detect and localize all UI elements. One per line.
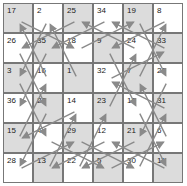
grid-cell[interactable]: 5 — [93, 153, 123, 183]
grid-cell[interactable]: 9 — [93, 33, 123, 63]
grid-cell[interactable]: 14 — [63, 93, 93, 123]
grid-cell[interactable]: 22 — [63, 153, 93, 183]
cell-number: 8 — [157, 6, 161, 15]
cell-number: 1 — [67, 66, 71, 75]
grid-cell[interactable]: 12 — [93, 123, 123, 153]
cell-number: 29 — [67, 126, 76, 135]
grid-cell[interactable]: 10 — [123, 93, 153, 123]
cell-number: 23 — [97, 96, 106, 105]
grid-cell[interactable]: 20 — [153, 63, 183, 93]
cell-number: 12 — [97, 126, 106, 135]
cell-number: 16 — [37, 66, 46, 75]
cell-number: 4 — [37, 126, 41, 135]
cell-number: 19 — [127, 6, 136, 15]
grid-cell[interactable]: 11 — [153, 153, 183, 183]
cell-number: 13 — [37, 156, 46, 165]
cell-number: 11 — [157, 156, 165, 165]
cell-number: 31 — [157, 96, 166, 105]
grid-cell[interactable]: 26 — [3, 33, 33, 63]
grid-cell[interactable]: 3 — [3, 63, 33, 93]
grid-cell[interactable]: 23 — [93, 93, 123, 123]
cell-number: 3 — [7, 66, 11, 75]
grid-cell[interactable]: 15 — [3, 123, 33, 153]
cell-number: 36 — [7, 96, 16, 105]
grid-cell[interactable]: 29 — [63, 123, 93, 153]
grid-cell[interactable]: 6 — [153, 123, 183, 153]
grid-cell[interactable]: 21 — [123, 123, 153, 153]
grid-cell[interactable]: 1 — [63, 63, 93, 93]
grid-cell[interactable]: 36 — [3, 93, 33, 123]
grid-cell[interactable]: 17 — [3, 3, 33, 33]
grid-cell[interactable]: 2 — [33, 3, 63, 33]
grid-cell[interactable]: 16 — [33, 63, 63, 93]
grid-cell[interactable]: 31 — [153, 93, 183, 123]
cell-number: 10 — [127, 96, 136, 105]
grid-cell[interactable]: 7 — [123, 63, 153, 93]
grid-cell[interactable]: 33 — [153, 33, 183, 63]
cell-number: 20 — [157, 66, 166, 75]
cell-number: 22 — [67, 156, 76, 165]
cell-number: 5 — [97, 156, 101, 165]
cell-number: 7 — [127, 66, 131, 75]
grid-cell[interactable]: 28 — [3, 153, 33, 183]
grid-cell[interactable]: 27 — [33, 93, 63, 123]
grid-cell[interactable]: 19 — [123, 3, 153, 33]
cell-number: 27 — [37, 96, 46, 105]
cell-number: 28 — [7, 156, 16, 165]
cell-number: 14 — [67, 96, 76, 105]
cell-number: 9 — [97, 36, 101, 45]
grid-cell[interactable]: 30 — [123, 153, 153, 183]
cell-number: 2 — [37, 6, 41, 15]
grid-cell[interactable]: 34 — [93, 3, 123, 33]
cell-number: 25 — [67, 6, 76, 15]
cell-number: 26 — [7, 36, 16, 45]
grid-cell[interactable]: 35 — [33, 33, 63, 63]
cell-number: 35 — [37, 36, 46, 45]
cell-number: 32 — [97, 66, 106, 75]
cell-number: 30 — [127, 156, 136, 165]
grid-cell[interactable]: 25 — [63, 3, 93, 33]
cell-number: 21 — [127, 126, 136, 135]
grid-cell[interactable]: 4 — [33, 123, 63, 153]
puzzle-board: 1722534198263518924333161327203627142310… — [3, 3, 183, 183]
grid-cell[interactable]: 8 — [153, 3, 183, 33]
cell-number: 18 — [67, 36, 76, 45]
cell-number: 17 — [7, 6, 16, 15]
grid-cell[interactable]: 24 — [123, 33, 153, 63]
cell-number: 6 — [157, 126, 161, 135]
cell-number: 15 — [7, 126, 16, 135]
cell-number: 33 — [157, 36, 166, 45]
grid-cell[interactable]: 13 — [33, 153, 63, 183]
cell-number: 34 — [97, 6, 106, 15]
cell-number: 24 — [127, 36, 136, 45]
grid-cell[interactable]: 18 — [63, 33, 93, 63]
grid-cell[interactable]: 32 — [93, 63, 123, 93]
